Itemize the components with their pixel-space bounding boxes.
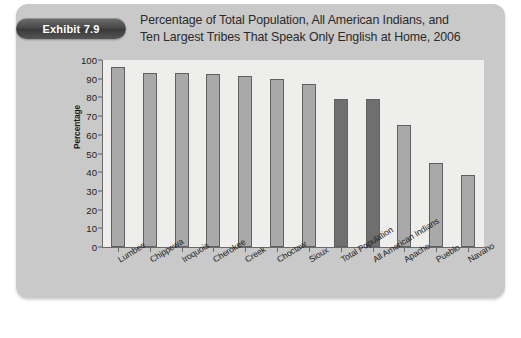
y-axis-tick-mark bbox=[98, 209, 102, 210]
y-axis-tick-mark bbox=[98, 153, 102, 154]
exhibit-figure-panel: Exhibit 7.9 Percentage of Total Populati… bbox=[16, 4, 505, 298]
bar bbox=[206, 74, 220, 247]
bar bbox=[111, 67, 125, 247]
bar bbox=[238, 76, 252, 247]
figure-title-line-2: Ten Largest Tribes That Speak Only Engli… bbox=[140, 29, 500, 46]
bar bbox=[461, 175, 475, 247]
bar bbox=[397, 125, 411, 247]
bar bbox=[429, 163, 443, 247]
figure-title-line-1: Percentage of Total Population, All Amer… bbox=[140, 12, 500, 29]
x-axis-tick-mark bbox=[182, 248, 183, 252]
y-axis-title: Percentage bbox=[72, 92, 82, 162]
y-axis-tick-mark bbox=[98, 78, 102, 79]
bar bbox=[175, 73, 189, 247]
y-axis-tick-mark bbox=[98, 134, 102, 135]
y-axis-tick-mark bbox=[98, 116, 102, 117]
figure-title: Percentage of Total Population, All Amer… bbox=[140, 12, 500, 46]
x-axis-tick-mark bbox=[309, 248, 310, 252]
bar bbox=[143, 73, 157, 247]
y-axis-tick-mark bbox=[98, 97, 102, 98]
exhibit-number-badge: Exhibit 7.9 bbox=[16, 18, 126, 39]
x-axis-tick-mark bbox=[468, 248, 469, 252]
figure-header: Exhibit 7.9 Percentage of Total Populati… bbox=[16, 10, 505, 58]
x-axis-tick-mark bbox=[245, 248, 246, 252]
bar bbox=[366, 99, 380, 247]
y-axis-tick-mark bbox=[98, 228, 102, 229]
y-axis-tick-mark bbox=[98, 190, 102, 191]
x-axis-tick-mark bbox=[373, 248, 374, 252]
y-axis-tick-mark bbox=[98, 172, 102, 173]
x-axis-tick-mark bbox=[213, 248, 214, 252]
y-axis-tick-mark bbox=[98, 60, 102, 61]
bar bbox=[302, 84, 316, 247]
bar bbox=[270, 79, 284, 247]
x-axis-tick-mark bbox=[436, 248, 437, 252]
x-axis-tick-mark bbox=[341, 248, 342, 252]
y-axis-line bbox=[102, 60, 103, 248]
x-axis-tick-mark bbox=[277, 248, 278, 252]
x-axis-tick-mark bbox=[150, 248, 151, 252]
y-axis-tick-mark bbox=[98, 247, 102, 248]
bar bbox=[334, 99, 348, 247]
x-axis-tick-mark bbox=[118, 248, 119, 252]
x-axis-tick-mark bbox=[404, 248, 405, 252]
x-axis-label-layer: LumbeeChippewaIroquoisCherokeeCreekChoct… bbox=[102, 254, 521, 302]
